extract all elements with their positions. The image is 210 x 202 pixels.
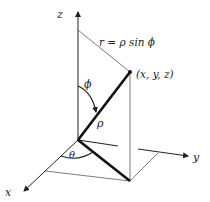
x-axis-label: x (5, 186, 12, 199)
projection-y-line (130, 153, 158, 181)
theta-label: θ (69, 149, 75, 160)
y-axis-label: y (192, 151, 200, 164)
point-marker (128, 70, 132, 74)
projection-line (78, 140, 130, 181)
rho-label: ρ (96, 117, 104, 130)
spherical-coordinates-diagram: z y x r = ρ sin ϕ (x, y, z) ϕ ρ θ (0, 0, 210, 202)
phi-label: ϕ (84, 78, 92, 91)
z-axis-label: z (56, 8, 63, 21)
r-formula-label: r = ρ sin ϕ (99, 36, 155, 48)
theta-arc (61, 152, 93, 158)
x-axis (24, 140, 78, 191)
y-axis (138, 149, 188, 156)
point-label: (x, y, z) (136, 68, 174, 80)
